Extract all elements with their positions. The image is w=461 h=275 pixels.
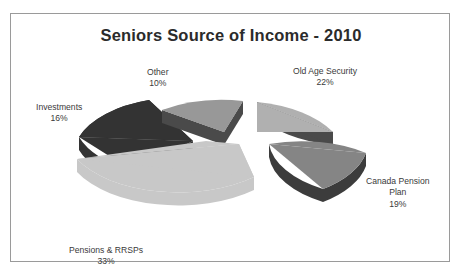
pie-label-pensions-rrsps-pct: 33% [69, 256, 143, 267]
pie-label-other-pct: 10% [147, 78, 169, 89]
pie-label-canada-pension-plan-pct: 19% [366, 199, 430, 210]
pie-label-investments: Investments 16% [36, 102, 82, 125]
pie-slice-canada-pension-plan [269, 141, 366, 202]
pie-label-pensions-rrsps: Pensions & RRSPs 33% [69, 245, 143, 268]
pie-chart-graphic [11, 14, 451, 263]
pie-label-old-age-security: Old Age Security 22% [293, 66, 357, 89]
pie-label-canada-pension-plan: Canada Pension Plan 19% [366, 176, 430, 210]
pie-label-pensions-rrsps-name: Pensions & RRSPs [69, 245, 143, 255]
pie-label-investments-pct: 16% [36, 113, 82, 124]
pie-label-old-age-security-pct: 22% [293, 77, 357, 88]
pie-label-other: Other 10% [147, 67, 169, 90]
pie-label-old-age-security-name: Old Age Security [293, 66, 357, 76]
pie-label-other-name: Other [147, 67, 169, 77]
pie-label-canada-pension-plan-name2: Plan [366, 187, 430, 198]
chart-frame: Seniors Source of Income - 2010 [10, 13, 450, 262]
pie-label-canada-pension-plan-name: Canada Pension [366, 176, 430, 186]
pie-slice-old-age-security [257, 102, 333, 145]
pie-label-investments-name: Investments [36, 102, 82, 112]
